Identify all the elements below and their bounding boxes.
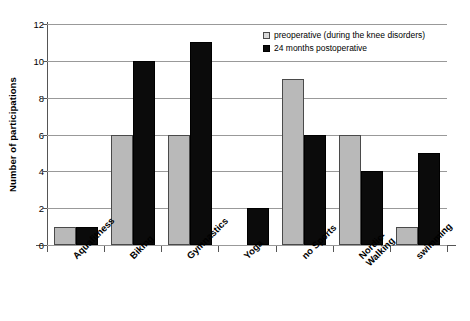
x-tick-mark [333,246,334,252]
x-tick-mark [104,246,105,252]
gridline [47,98,447,99]
gridline [47,135,447,136]
y-tick-label: 0 [22,240,44,251]
y-tick-label: 2 [22,203,44,214]
gridline [47,171,447,172]
bar [339,135,361,246]
legend-item-preoperative: preoperative (during the knee disorders) [263,30,425,40]
y-tick-label: 12 [22,19,44,30]
legend-swatch-postoperative-icon [263,45,270,52]
y-axis-title: Number of participations [0,0,24,265]
x-tick-mark [218,246,219,252]
plot-area [47,24,447,245]
legend-swatch-preoperative-icon [263,32,270,39]
y-tick-label: 10 [22,55,44,66]
y-tick-label: 6 [22,129,44,140]
bar [190,42,212,245]
gridline [47,61,447,62]
legend-label-postoperative: 24 months postoperative [274,43,367,53]
bar-chart: Number of participations 024681012 Aquaf… [0,0,470,321]
legend: preoperative (during the knee disorders)… [263,30,425,53]
bar [133,61,155,245]
gridline [47,24,447,25]
bar [282,79,304,245]
y-tick-label: 4 [22,166,44,177]
bar [168,135,190,246]
legend-item-postoperative: 24 months postoperative [263,43,425,53]
bar [54,227,76,245]
bar [111,135,133,246]
x-tick-mark [276,246,277,252]
y-tick-label: 8 [22,92,44,103]
bar [396,227,418,245]
legend-label-preoperative: preoperative (during the knee disorders) [274,30,425,40]
x-tick-mark [161,246,162,252]
x-tick-mark [447,246,448,252]
x-tick-mark [47,246,48,252]
